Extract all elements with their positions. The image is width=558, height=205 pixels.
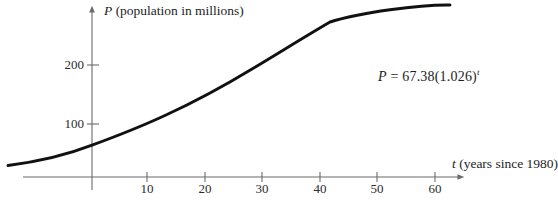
x-tick-label-20: 20 (199, 181, 212, 197)
x-tick-label-50: 50 (371, 181, 384, 197)
x-tick-label-10: 10 (141, 181, 154, 197)
y-axis-caption-text: (population in millions) (112, 3, 244, 18)
exponential-population-growth-chart: 10 20 30 40 50 60 200 100 P (population … (0, 0, 558, 205)
y-axis-ticks (87, 65, 99, 124)
x-tick-label-30: 30 (256, 181, 269, 197)
x-axis-caption: t (years since 1980) (452, 156, 558, 172)
chart-plot-area (0, 0, 558, 205)
curve-equation-annotation: P = 67.38(1.026)t (378, 69, 480, 85)
y-tick-label-100: 100 (51, 116, 84, 132)
equation-exponent: t (477, 67, 480, 77)
y-axis-variable: P (104, 3, 112, 18)
equation-lhs: P (378, 69, 387, 84)
y-axis-caption: P (population in millions) (104, 3, 244, 19)
population-curve (8, 5, 450, 166)
equation-body: = 67.38(1.026) (387, 69, 477, 84)
y-tick-label-200: 200 (51, 57, 84, 73)
x-axis-caption-text: (years since 1980) (456, 156, 558, 171)
x-tick-label-40: 40 (314, 181, 327, 197)
x-tick-label-60: 60 (429, 181, 442, 197)
